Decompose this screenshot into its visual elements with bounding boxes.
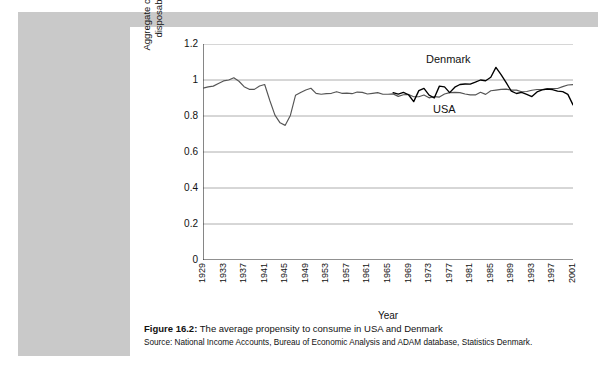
- y-tick-label: 0.8: [184, 111, 198, 121]
- x-tick-label: 1937: [239, 263, 248, 283]
- figure-title: The average propensity to consume in USA…: [200, 323, 443, 334]
- chart: Aggregate consumption / aggregate dispos…: [130, 27, 598, 317]
- plot-area: [203, 44, 573, 260]
- x-tick-label: 1997: [547, 263, 556, 283]
- caption-title-line: Figure 16.2: The average propensity to c…: [144, 322, 594, 335]
- x-tick-label: 1969: [404, 263, 413, 283]
- figure-source: Source: National Income Accounts, Bureau…: [144, 337, 594, 349]
- x-tick-label: 1945: [280, 263, 289, 283]
- series-label-denmark: Denmark: [426, 53, 471, 65]
- x-tick-label: 1985: [486, 263, 495, 283]
- plot-svg: [203, 44, 573, 260]
- x-tick-label: 2001: [568, 263, 577, 283]
- y-tick-label: 1.2: [184, 39, 198, 49]
- x-tick-label: 1949: [301, 263, 310, 283]
- x-tick-label: 1933: [219, 263, 228, 283]
- x-tick-label: 1941: [260, 263, 269, 283]
- y-tick-label: 1: [192, 75, 198, 85]
- y-tick-label: 0.4: [184, 183, 198, 193]
- x-tick-label: 1973: [424, 263, 433, 283]
- series-label-usa: USA: [433, 103, 456, 115]
- x-axis-title: Year: [203, 310, 573, 321]
- figure-container: Aggregate consumption / aggregate dispos…: [0, 0, 616, 368]
- figure-number: Figure 16.2:: [144, 323, 197, 334]
- x-tick-label: 1977: [445, 263, 454, 283]
- x-tick-label: 1961: [362, 263, 371, 283]
- y-axis-tick-labels: 00.20.40.60.811.2: [166, 27, 198, 287]
- y-axis-title: Aggregate consumption / aggregate dispos…: [141, 0, 167, 65]
- x-tick-label: 1953: [321, 263, 330, 283]
- x-tick-label: 1981: [465, 263, 474, 283]
- figure-caption: Figure 16.2: The average propensity to c…: [144, 322, 594, 349]
- gridlines: [203, 44, 573, 224]
- x-tick-label: 1929: [198, 263, 207, 283]
- x-tick-label: 1989: [506, 263, 515, 283]
- y-tick-label: 0.2: [184, 219, 198, 229]
- x-tick-label: 1993: [527, 263, 536, 283]
- series-line-denmark: [393, 67, 573, 104]
- y-tick-label: 0.6: [184, 147, 198, 157]
- x-axis-tick-labels: 1929193319371941194519491953195719611965…: [203, 263, 575, 309]
- series-line-usa: [203, 78, 573, 126]
- x-tick-label: 1965: [383, 263, 392, 283]
- figure-white-panel: Aggregate consumption / aggregate dispos…: [130, 27, 598, 356]
- x-tick-label: 1957: [342, 263, 351, 283]
